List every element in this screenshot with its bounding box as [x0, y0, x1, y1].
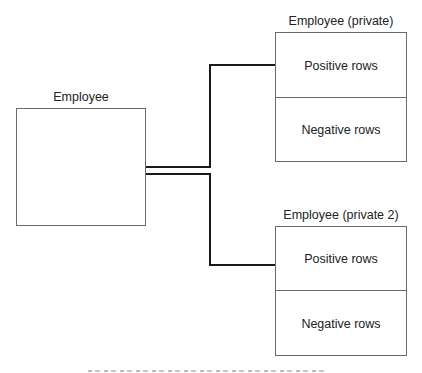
negative-rows-section: Negative rows	[276, 291, 406, 356]
connector-upper-horizontal-right	[209, 64, 276, 66]
employee-private-2-box: Positive rows Negative rows	[275, 226, 407, 356]
positive-rows-section: Positive rows	[276, 33, 406, 98]
connector-upper-vertical	[209, 64, 211, 168]
connector-lower-horizontal-right	[209, 264, 276, 266]
connector-upper-horizontal-left	[146, 166, 211, 168]
employee-box	[16, 108, 146, 226]
clipped-caption	[88, 367, 328, 373]
connector-lower-vertical	[209, 173, 211, 266]
negative-rows-section: Negative rows	[276, 98, 406, 162]
employee-title: Employee	[16, 90, 146, 104]
connector-lower-horizontal-left	[146, 173, 211, 175]
employee-private-box: Positive rows Negative rows	[275, 32, 407, 162]
employee-private-2-title: Employee (private 2)	[262, 208, 420, 222]
employee-private-title: Employee (private)	[262, 14, 420, 28]
positive-rows-section: Positive rows	[276, 227, 406, 291]
